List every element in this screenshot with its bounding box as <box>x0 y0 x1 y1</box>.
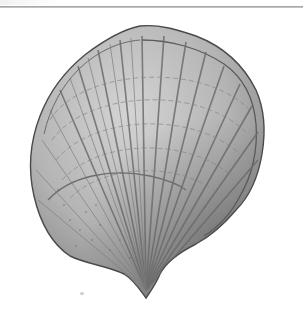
scallop-shell-illustration <box>0 0 303 312</box>
small-speck <box>80 292 84 295</box>
